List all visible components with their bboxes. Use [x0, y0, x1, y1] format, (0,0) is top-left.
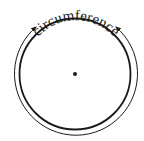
circumference-label-text: circumference: [29, 7, 124, 39]
center-dot: [73, 72, 77, 76]
circumference-diagram: circumference: [0, 0, 144, 141]
circumference-label: circumference: [29, 7, 124, 39]
circumference-arrow-arc: [14, 27, 137, 135]
diagram-svg: circumference: [0, 0, 144, 141]
